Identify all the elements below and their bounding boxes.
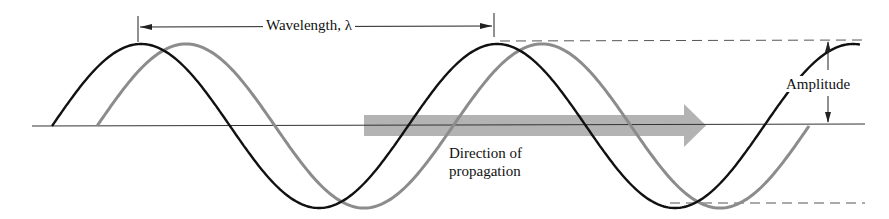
direction-label-line1: Direction of (449, 144, 522, 162)
direction-label-line2: propagation (449, 162, 522, 180)
wavelength-label: Wavelength, λ (263, 17, 355, 33)
crest-dashed-line (500, 40, 865, 41)
direction-label: Direction of propagation (449, 144, 522, 180)
amplitude-label: Amplitude (786, 76, 850, 92)
wave-diagram (0, 0, 889, 219)
